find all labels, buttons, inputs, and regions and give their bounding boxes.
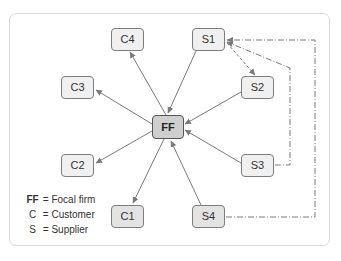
legend-eq: = [43,224,49,235]
node-c2: C2 [61,154,94,177]
legend-key: FF [25,192,40,207]
node-c3: C3 [61,76,94,99]
node-c4: C4 [111,28,144,51]
legend-row-focal: FF = Focal firm [25,192,95,207]
legend-text: Customer [51,209,94,220]
edge-s4-s1 [226,40,315,217]
edge-ff-c4 [130,52,166,115]
edge-s1-ff [168,51,196,113]
legend-text: Supplier [51,224,88,235]
legend-eq: = [43,194,49,205]
legend-key: C [25,207,40,222]
legend: FF = Focal firm C = Customer S = Supplie… [25,192,95,237]
node-focal-firm: FF [152,115,184,139]
edge-ff-c1 [133,139,164,203]
legend-key: S [25,222,40,237]
edge-s4-ff [171,141,201,205]
legend-text: Focal firm [51,194,95,205]
edge-s3-s1 [227,42,290,165]
legend-row-supplier: S = Supplier [25,222,95,237]
edge-s3-ff [185,130,241,163]
node-s2: S2 [241,76,274,99]
node-c1: C1 [111,205,144,228]
node-s1: S1 [192,28,225,51]
legend-row-customer: C = Customer [25,207,95,222]
node-s3: S3 [241,154,274,177]
edge-s2-ff [185,92,241,124]
node-s4: S4 [192,205,225,228]
edge-ff-c3 [96,90,152,124]
edge-ff-c2 [96,131,152,163]
legend-eq: = [43,209,49,220]
